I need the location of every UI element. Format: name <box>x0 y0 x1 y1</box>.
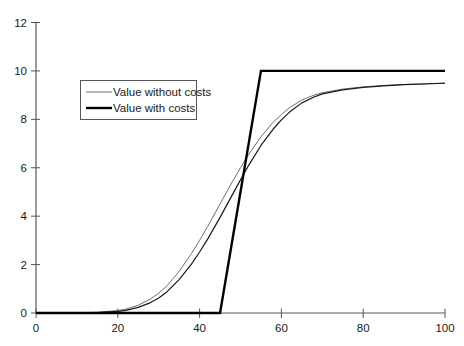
legend-label-value-with-costs: Value with costs <box>113 102 195 114</box>
y-tick-label: 12 <box>14 17 27 29</box>
y-tick-label: 8 <box>21 113 27 125</box>
chart-background <box>0 0 464 346</box>
y-tick-label: 10 <box>14 65 27 77</box>
y-tick-label: 6 <box>21 162 27 174</box>
chart-legend: Value without costs Value with costs <box>81 81 212 120</box>
y-tick-label: 0 <box>21 307 27 319</box>
x-tick-label: 60 <box>275 322 288 334</box>
x-tick-label: 40 <box>193 322 206 334</box>
chart-container: 024681012 020406080100 Value without cos… <box>0 0 464 346</box>
legend-label-value-without-costs: Value without costs <box>113 86 211 98</box>
y-tick-label: 4 <box>21 210 28 222</box>
y-tick-label: 2 <box>21 259 27 271</box>
x-tick-label: 100 <box>435 322 454 334</box>
x-tick-label: 0 <box>33 322 39 334</box>
line-chart: 024681012 020406080100 Value without cos… <box>0 0 464 346</box>
x-tick-label: 20 <box>111 322 124 334</box>
x-tick-label: 80 <box>357 322 370 334</box>
